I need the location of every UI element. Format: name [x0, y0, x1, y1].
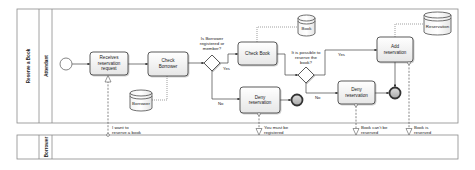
data-store-label: Borrower: [132, 101, 150, 106]
task-label: reservation: [345, 93, 368, 98]
gateway-question: book?: [300, 60, 313, 65]
message-source-icon: [107, 134, 110, 137]
gateway-question: member?: [203, 46, 222, 51]
task-label: Check: [161, 58, 175, 63]
end-event-icon: [390, 88, 401, 99]
data-store-borrower: Borrower: [130, 90, 152, 111]
task-label: Deny: [255, 95, 266, 100]
message-source-icon: [408, 62, 411, 65]
task-label: reservation: [249, 100, 272, 105]
start-event-icon: [60, 58, 72, 70]
pool-border: [17, 135, 458, 159]
message-arrow-icon: [353, 129, 359, 136]
message-label: reserve a book: [112, 130, 142, 135]
data-store-reservation: Reservation: [424, 12, 451, 35]
lane-label-borrower: Borrower: [44, 137, 49, 158]
task-label: Borrower: [159, 64, 178, 69]
task-label: reservation: [98, 61, 121, 66]
task-label: Check Book: [245, 51, 270, 56]
task-deny-reservation-not-registered: Deny reservation: [240, 87, 280, 113]
data-store-book: Book: [298, 15, 315, 36]
pool-borrower: Borrower: [17, 135, 458, 159]
task-label: Receives: [100, 55, 120, 60]
message-source-icon: [258, 113, 261, 116]
task-check-borrower: Check Borrower: [148, 52, 188, 76]
gateway-no-label: No: [218, 101, 224, 106]
pool-border: [17, 9, 458, 123]
end-event-icon: [292, 95, 303, 106]
message-label: registered: [264, 130, 284, 135]
message-label: reserved: [414, 130, 432, 135]
task-check-book: Check Book: [238, 42, 277, 65]
data-store-label: Reservation: [426, 24, 450, 29]
task-label: Deny: [351, 87, 362, 92]
task-label: Add: [391, 44, 400, 49]
pool-reserve-a-book: Reserve a Book Attendant: [17, 9, 458, 123]
task-deny-reservation-not-available: Deny reservation: [338, 81, 375, 104]
data-store-label: Book: [301, 26, 312, 31]
task-receive-reservation-request: Receives reservation request: [90, 52, 128, 75]
gateway-yes-label: Yes: [338, 52, 345, 57]
database-rim: [298, 18, 315, 24]
database-rim: [130, 93, 152, 99]
message-label: reserved: [361, 130, 379, 135]
message-source-icon: [355, 104, 358, 107]
lane-label-attendant: Attendant: [44, 55, 49, 77]
gateway-yes-label: Yes: [223, 66, 230, 71]
bpmn-diagram: Reserve a Book Attendant Borrower Receiv…: [0, 0, 475, 170]
message-arrow-icon: [256, 129, 262, 136]
task-label: reservation: [384, 50, 407, 55]
task-add-reservation: Add reservation: [377, 37, 413, 62]
pool-label: Reserve a Book: [26, 48, 31, 83]
message-arrow-icon: [406, 129, 412, 136]
task-label: request: [101, 66, 117, 71]
gateway-no-label: No: [315, 95, 321, 100]
